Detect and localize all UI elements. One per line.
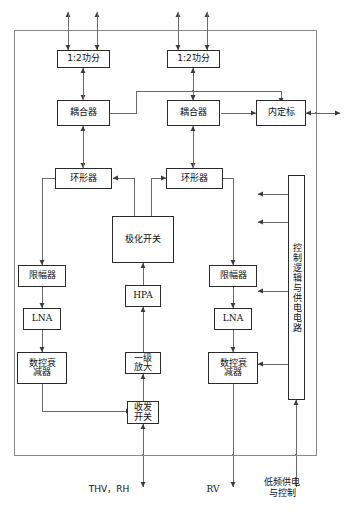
block-limiter-2[interactable]: 限幅器 — [209, 265, 257, 287]
block-hpa[interactable]: HPA — [125, 285, 161, 307]
block-control-logic-and-power-supply[interactable]: 控制逻辑与供电电路 — [288, 175, 305, 400]
block-tr-switch[interactable]: 收发 开关 — [127, 401, 159, 424]
block-diagram-canvas: 1:2功分 1:2功分 耦合器 耦合器 内定标 环形器 环形器 极化开关 限幅器… — [0, 0, 347, 523]
block-first-stage-amplifier[interactable]: 一级 放大 — [125, 352, 161, 374]
block-power-divider-2[interactable]: 1:2功分 — [167, 50, 220, 68]
block-coupler-1[interactable]: 耦合器 — [57, 100, 110, 126]
block-circulator-2[interactable]: 环形器 — [166, 168, 223, 189]
block-coupler-2[interactable]: 耦合器 — [167, 100, 220, 126]
block-polarization-switch[interactable]: 极化开关 — [112, 216, 174, 263]
block-power-divider-1[interactable]: 1:2功分 — [57, 50, 110, 68]
port-label-thv-rh: THV，RH — [78, 484, 140, 495]
block-lna-1[interactable]: LNA — [23, 308, 61, 330]
port-label-low-freq-power-control: 低频供电 与控制 — [253, 477, 311, 500]
block-digital-attenuator-1[interactable]: 数控衰 减器 — [17, 352, 67, 384]
block-circulator-1[interactable]: 环形器 — [55, 168, 112, 189]
block-digital-attenuator-2[interactable]: 数控衰 减器 — [208, 352, 258, 384]
block-lna-2[interactable]: LNA — [214, 308, 252, 330]
block-limiter-1[interactable]: 限幅器 — [18, 265, 66, 287]
port-label-rv: RV — [198, 484, 228, 495]
block-internal-calibration[interactable]: 内定标 — [256, 100, 306, 126]
